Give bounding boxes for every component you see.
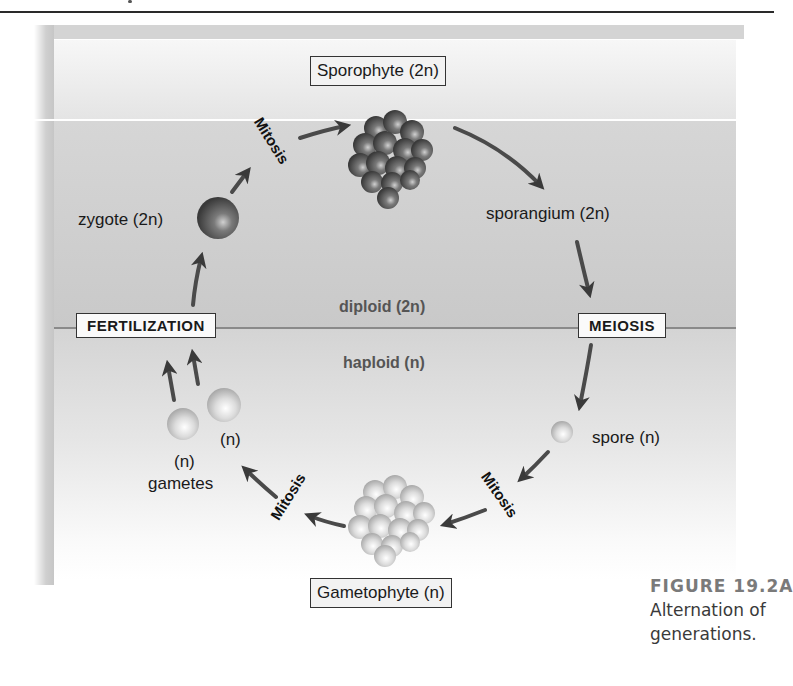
arrow-zygote-to-mitosis	[232, 172, 247, 192]
fertilization-label: FERTILIZATION	[76, 313, 216, 338]
arrow-gamete2-to-fertilization	[193, 355, 198, 384]
gametophyte-label: Gametophyte (n)	[310, 578, 452, 608]
diploid-region-label: diploid (2n)	[339, 298, 425, 316]
gametes-label: gametes	[148, 474, 213, 494]
arrow-meiosis-to-spore	[580, 345, 591, 405]
meiosis-label: MEIOSIS	[578, 313, 666, 338]
zygote-cell	[197, 197, 239, 239]
zygote-label: zygote (2n)	[78, 210, 163, 230]
gamete-1-label: (n)	[174, 452, 195, 472]
arrow-sporophyte-to-sporangium	[455, 128, 540, 185]
spore-cell	[551, 421, 573, 443]
arrow-gametophyte-to-mitosis	[310, 516, 344, 526]
sporophyte-label: Sporophyte (2n)	[310, 56, 446, 86]
arrow-sporangium-to-meiosis	[577, 242, 589, 292]
sporophyte-cell-cluster	[348, 110, 433, 209]
haploid-region-label: haploid (n)	[343, 354, 425, 372]
figure-caption-text: Alternation of generations.	[650, 598, 770, 646]
arrow-mitosis-to-gametes	[246, 470, 276, 497]
gamete-cell-2	[207, 388, 241, 422]
gamete-cell-1	[167, 408, 199, 440]
arrow-gamete1-to-fertilization	[168, 366, 174, 400]
arrow-mitosis-to-sporophyte	[300, 126, 345, 138]
sporangium-label: sporangium (2n)	[486, 204, 610, 224]
arrow-spore-to-mitosis	[522, 452, 548, 478]
gamete-2-label: (n)	[220, 430, 241, 450]
arrow-mitosis-to-gametophyte	[446, 510, 485, 524]
gametophyte-cell-cluster	[348, 475, 435, 567]
figure-caption-number: FIGURE 19.2A	[650, 576, 793, 596]
spore-label: spore (n)	[592, 428, 660, 448]
arrow-fertilization-to-zygote	[193, 258, 201, 305]
